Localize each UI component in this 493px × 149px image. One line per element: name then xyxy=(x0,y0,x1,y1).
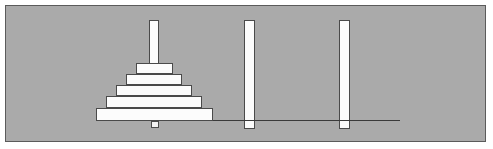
disk-5[interactable] xyxy=(96,108,213,121)
disk-3[interactable] xyxy=(116,85,192,96)
screenshot-stage xyxy=(0,0,493,149)
peg-1-stub xyxy=(151,121,159,128)
hanoi-canvas[interactable] xyxy=(6,6,485,141)
disk-2[interactable] xyxy=(126,74,182,85)
disk-1[interactable] xyxy=(136,63,173,74)
peg-2[interactable] xyxy=(244,20,255,129)
disk-4[interactable] xyxy=(106,96,202,108)
hanoi-canvas-frame xyxy=(5,5,486,142)
peg-3[interactable] xyxy=(339,20,350,129)
